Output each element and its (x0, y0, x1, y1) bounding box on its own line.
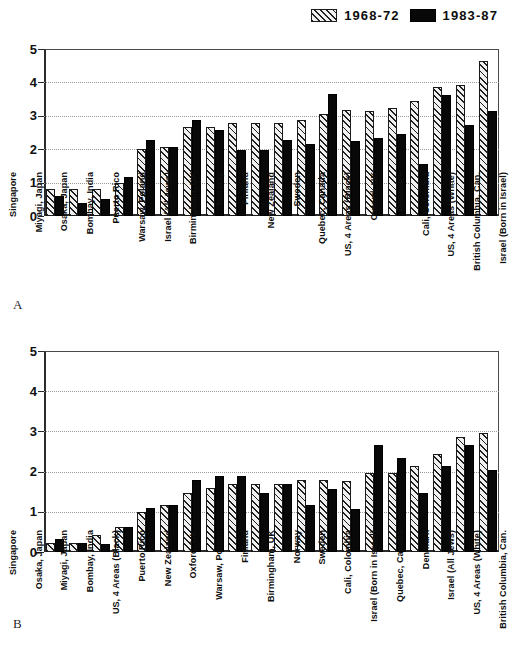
bar-1968-72 (228, 123, 237, 216)
x-axis-label: Sweden (292, 172, 302, 207)
bar-1983-87 (283, 484, 292, 552)
x-axis-label: Puerto Rico (137, 530, 147, 582)
bar-group (476, 351, 499, 552)
bar-1983-87 (124, 177, 133, 216)
x-axis-label: Denmark (421, 530, 431, 569)
bar-group (112, 351, 135, 552)
x-axis-label-cell: US, 4 Areas (White) (464, 526, 490, 527)
x-axis-label: US, 4 Areas (Black) (111, 530, 121, 614)
x-axis-label: Warsaw, Poland (137, 172, 147, 242)
bar-1968-72 (433, 454, 442, 552)
x-axis-label: British Columbia, Can. (498, 530, 508, 629)
x-axis-label: Miyagi, Japan (34, 172, 44, 232)
bar-1983-87 (283, 140, 292, 216)
bar-1968-72 (46, 189, 55, 216)
x-axis-label: Denmark (395, 172, 405, 211)
bar-group (272, 351, 295, 552)
panel-b: 012345 SingaporeOsaka, JapanMiyagi, Japa… (0, 324, 516, 649)
x-axis-label: US, 4 Areas (White) (446, 172, 456, 257)
x-axis-label: Oxford, UK (369, 172, 379, 221)
x-axis-label-cell: Denmark (413, 526, 439, 527)
panel-a: 1968-72 1983-87 012345 SingaporeMiyagi, … (0, 0, 516, 325)
x-axis-label-cell: Israel (All Jews) (439, 526, 465, 527)
bar-group (203, 351, 226, 552)
legend-label-1968-72: 1968-72 (344, 8, 399, 23)
y-axis-tick-label: 2 (30, 465, 44, 479)
x-axis-label-cell: Israel (All Jews) (155, 168, 181, 169)
bar-group (408, 351, 431, 552)
bar-group (226, 351, 249, 552)
y-axis-tick-label: 1 (30, 505, 44, 519)
x-axis-label: Norway (214, 172, 224, 205)
x-axis-label-cell: Bombay, India (77, 526, 103, 527)
bar-group (385, 351, 408, 552)
y-axis-tick-label: 5 (30, 344, 44, 358)
x-axis-label: Finland (240, 172, 250, 205)
bar-1968-72 (410, 101, 419, 216)
x-axis-label-cell: Miyagi, Japan (52, 526, 78, 527)
x-axis-label-cell: Miyagi, Japan (26, 168, 52, 169)
bar-group (294, 351, 317, 552)
bar-group (67, 351, 90, 552)
x-axis-label-cell: Norway (206, 168, 232, 169)
x-axis-label: Israel (All Jews) (163, 172, 173, 242)
x-axis-label-cell: Oxford, UK (361, 168, 387, 169)
bar-1983-87 (101, 199, 110, 216)
x-axis-label: Singapore (8, 530, 18, 575)
bar-1983-87 (306, 144, 315, 216)
chart-legend: 1968-72 1983-87 (0, 8, 516, 23)
x-axis-label: Birmingham, UK (266, 530, 276, 602)
x-axis-labels-b: SingaporeOsaka, JapanMiyagi, JapanBombay… (0, 526, 516, 527)
x-axis-label-cell: US, 4 Areas (Black) (335, 168, 361, 169)
y-axis-tick-label: 2 (30, 142, 44, 156)
x-axis-label: Sweden (317, 530, 327, 565)
bar-1968-72 (456, 437, 465, 552)
x-axis-label: Osaka, Japan (34, 530, 44, 589)
bar-1968-72 (410, 466, 419, 552)
x-axis-label: British Columbia, Can. (472, 172, 482, 271)
bar-1983-87 (328, 489, 337, 552)
x-axis-label-cell: Puerto Rico (103, 168, 129, 169)
y-axis-tick-label: 3 (30, 109, 44, 123)
legend-item-1983-87: 1983-87 (410, 8, 498, 23)
legend-swatch-solid-icon (410, 9, 436, 22)
x-axis-label: Cali, Colombia (421, 172, 431, 236)
x-axis-label-cell: British Columbia, Can. (464, 168, 490, 169)
x-axis-label-cell: Cali, Colombia (335, 526, 361, 527)
x-axis-label: Birmingham, UK (188, 172, 198, 244)
bar-1968-72 (456, 85, 465, 216)
bar-1968-72 (69, 543, 78, 552)
x-axis-labels-a: SingaporeMiyagi, JapanOsaka, JapanBombay… (0, 168, 516, 169)
x-axis-label: Israel (All Jews) (446, 530, 456, 600)
bar-group (363, 351, 386, 552)
x-axis-label-cell: Oxford, UK (181, 526, 207, 527)
x-axis-label-cell: Birmingham, UK (181, 168, 207, 169)
bar-group (317, 351, 340, 552)
x-axis-label-cell: Sweden (310, 526, 336, 527)
y-axis-tick-label: 3 (30, 424, 44, 438)
x-axis-label: Israel (Born in Israel) (369, 530, 379, 622)
x-axis-label: Miyagi, Japan (59, 530, 69, 590)
bar-1983-87 (101, 544, 110, 552)
x-axis-label: Cali, Colombia (343, 530, 353, 594)
x-axis-label-cell: Israel (Born in Israel) (490, 168, 516, 169)
x-axis-label: Bombay, India (85, 530, 95, 592)
x-axis-label-cell: Norway (284, 526, 310, 527)
legend-label-1983-87: 1983-87 (443, 8, 498, 23)
x-axis-label: Quebec, Canada (317, 172, 327, 244)
bar-group (181, 351, 204, 552)
x-axis-label-cell: US, 4 Areas (Black) (103, 526, 129, 527)
x-axis-label-cell: Sweden (284, 168, 310, 169)
x-axis-label-cell: Puerto Rico (129, 526, 155, 527)
bar-1983-87 (146, 140, 155, 216)
x-axis-label: Singapore (8, 172, 18, 217)
x-axis-label-cell: Singapore (0, 168, 26, 169)
bar-1968-72 (433, 87, 442, 216)
x-axis-label: New Zealand (163, 530, 173, 586)
x-axis-label-cell: Warsaw, Poland (129, 168, 155, 169)
bar-group (340, 351, 363, 552)
x-axis-label-cell: Osaka, Japan (26, 526, 52, 527)
x-axis-label-cell: Singapore (0, 526, 26, 527)
x-axis-label: Norway (292, 530, 302, 563)
x-axis-label-cell: New Zealand (258, 168, 284, 169)
